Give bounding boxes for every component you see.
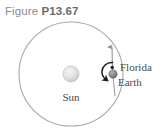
florida-label: Florida	[120, 61, 152, 73]
orbit-diagram: Sun Florida Earth	[0, 0, 161, 139]
sun-sphere	[63, 66, 79, 82]
figure-container: Figure P13.67 Sun	[0, 0, 161, 139]
florida-dot	[111, 66, 114, 69]
earth-sphere	[109, 70, 117, 78]
earth-label: Earth	[118, 76, 142, 88]
earth-axis-lower	[113, 78, 115, 96]
sun-label: Sun	[62, 91, 80, 103]
